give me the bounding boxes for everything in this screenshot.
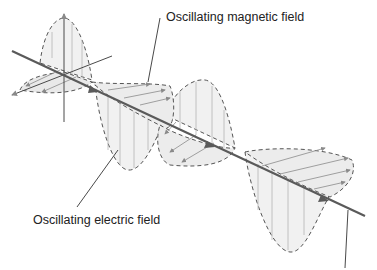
magnetic-field-label: Oscillating magnetic field [166,10,304,24]
electric-field-label: Oscillating electric field [33,213,160,227]
em-wave-diagram [0,0,377,270]
propagation-axis [12,51,365,216]
